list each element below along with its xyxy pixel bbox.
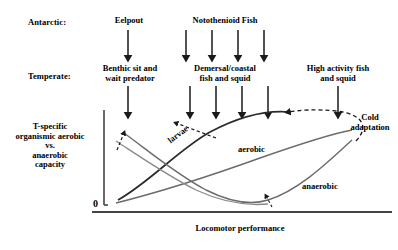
annotation-anaerobic: anaerobic [302, 182, 338, 192]
x-axis-label: Locomotor performance [150, 224, 330, 234]
figure-root: Antarctic: Temperate: Eelpout Notothenio… [0, 0, 398, 250]
arrow-left-dashed-up [117, 133, 124, 150]
annotation-cold-adaptation: Cold adaptation [344, 113, 396, 132]
y-axis-origin-label: 0 [93, 198, 98, 209]
curve-anaerobic [116, 130, 352, 203]
annotation-aerobic: aerobic [238, 145, 265, 155]
arrow-lower-curve-dashed [266, 196, 272, 207]
plot-layer [0, 0, 398, 250]
